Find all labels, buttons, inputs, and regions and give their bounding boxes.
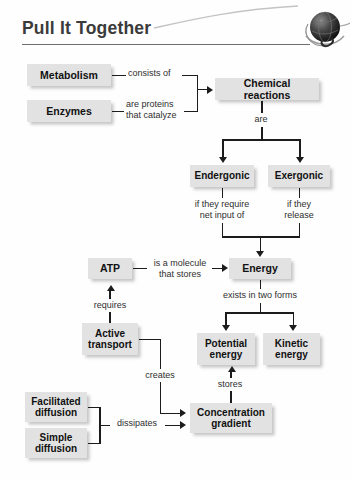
node-enzymes[interactable]: Enzymes (27, 100, 111, 122)
line-split-bar-endo-exo (222, 139, 300, 141)
line-endergonic-down (222, 188, 224, 198)
title-area: Pull It Together (22, 18, 322, 52)
label-stores: stores (207, 379, 253, 390)
arrowhead-to-concgrad-creates (180, 409, 186, 417)
label-are-proteins-that-catalyze: are proteins that catalyze (126, 99, 188, 120)
label-consists-of: consists of (128, 68, 186, 79)
title-underline-rule (22, 44, 310, 45)
node-endergonic[interactable]: Endergonic (190, 165, 254, 187)
line-split-left-endergonic (222, 139, 224, 158)
node-energy[interactable]: Energy (229, 258, 291, 279)
label-dissipates: dissipates (110, 418, 164, 429)
arrowhead-to-atp (107, 285, 115, 291)
label-creates: creates (134, 370, 186, 381)
line-creates-down (160, 382, 162, 414)
node-chemical-reactions[interactable]: Chemical reactions (215, 78, 319, 100)
line-active-to-atp-upper (109, 290, 111, 299)
node-exergonic[interactable]: Exergonic (268, 165, 330, 187)
label-if-they-release: if they release (271, 199, 327, 220)
line-split-bar-pot-kin (225, 312, 294, 314)
line-endergonic-down-2 (222, 223, 224, 237)
node-simple-diffusion[interactable]: Simple diffusion (25, 428, 87, 458)
globe-icon (300, 6, 350, 52)
line-active-to-atp-lower (109, 312, 111, 323)
node-potential-energy[interactable]: Potential energy (197, 333, 255, 365)
line-split-right-kinetic (293, 312, 295, 326)
line-chemrxn-down-a (261, 101, 263, 113)
concept-map-page: Pull It Together Metabolism Enzymes cons… (0, 0, 351, 481)
line-merge-down-to-energy (260, 236, 262, 252)
arrowhead-to-energy-from-atp (222, 264, 228, 272)
line-dissipates-to-concgrad (165, 425, 181, 427)
line-split-right-exergonic (299, 139, 301, 158)
line-creates-to-concgrad (160, 413, 182, 415)
label-if-they-require-net-input-of: if they require net input of (183, 199, 261, 220)
line-exergonic-down-2 (299, 223, 301, 237)
label-is-a-molecule-that-stores: is a molecule that stores (145, 258, 215, 279)
node-active-transport[interactable]: Active transport (82, 323, 138, 355)
arrowhead-to-potential-energy-stores (228, 366, 236, 372)
arrowhead-to-kinetic-energy (289, 325, 297, 331)
arrowhead-to-endergonic (219, 157, 227, 163)
swoosh-decoration (150, 4, 310, 34)
line-enzymes-stub (112, 111, 124, 113)
node-facilitated-diffusion[interactable]: Facilitated diffusion (25, 392, 87, 422)
line-diffusion-bracket-out (99, 425, 110, 427)
arrowhead-to-chemical-reactions (207, 86, 213, 94)
node-metabolism[interactable]: Metabolism (27, 64, 111, 86)
node-atp[interactable]: ATP (88, 258, 132, 279)
line-stores-upper (230, 371, 232, 378)
label-are: are (240, 114, 282, 125)
line-stores-lower (230, 391, 232, 403)
arrowhead-to-concgrad-dissipates (180, 421, 186, 429)
line-active-out (139, 339, 161, 341)
arrowhead-to-energy (256, 251, 264, 257)
arrowhead-to-exergonic (296, 157, 304, 163)
line-metabolism-stub (112, 75, 126, 77)
arrowhead-to-potential-energy (222, 325, 230, 331)
line-active-down-to-creates (160, 339, 162, 369)
label-exists-in-two-forms: exists in two forms (213, 290, 307, 301)
node-kinetic-energy[interactable]: Kinetic energy (263, 333, 320, 365)
label-requires: requires (84, 300, 136, 311)
line-exergonic-down (299, 188, 301, 198)
page-title: Pull It Together (22, 18, 151, 39)
line-energy-down-a (260, 280, 262, 289)
node-concentration-gradient[interactable]: Concentration gradient (190, 403, 272, 433)
line-split-left-potential (225, 312, 227, 326)
line-bracket-merge-vertical (197, 75, 199, 113)
